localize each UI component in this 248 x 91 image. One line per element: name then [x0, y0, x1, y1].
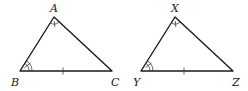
angle-x-tick	[175, 21, 176, 27]
vertex-label-z: Z	[231, 76, 240, 89]
triangle-abc-outline	[20, 17, 112, 71]
vertex-label-c: C	[111, 76, 120, 89]
triangle-xyz: X Y Z	[133, 2, 240, 89]
vertex-label-b: B	[10, 76, 19, 89]
congruent-triangles-diagram: A B C X Y Z	[0, 0, 248, 91]
vertex-label-y: Y	[133, 76, 142, 89]
triangle-abc: A B C	[10, 2, 120, 89]
angle-a-tick	[54, 21, 55, 27]
triangle-xyz-outline	[141, 17, 233, 71]
vertex-label-a: A	[49, 2, 58, 15]
vertex-label-x: X	[170, 2, 180, 15]
